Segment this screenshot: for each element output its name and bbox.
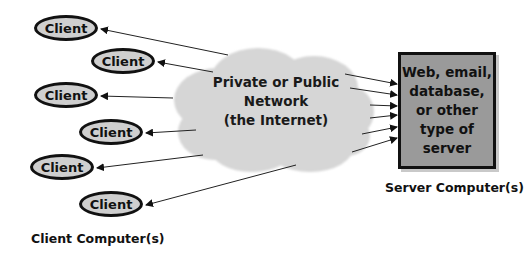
client-node-6: Client xyxy=(79,191,143,217)
client-node-5: Client xyxy=(30,154,94,180)
client-node-1: Client xyxy=(34,15,98,41)
server-caption: Server Computer(s) xyxy=(385,180,524,195)
network-label: Private or Public Network (the Internet) xyxy=(196,73,356,130)
network-label-line-1: Private or Public xyxy=(196,73,356,92)
network-label-line-2: Network xyxy=(196,92,356,111)
network-label-line-3: (the Internet) xyxy=(196,111,356,130)
client-node-4: Client xyxy=(79,119,143,145)
server-label: Web, email, database, or other type of s… xyxy=(402,63,492,158)
client-node-2: Client xyxy=(91,48,155,74)
client-caption: Client Computer(s) xyxy=(31,231,165,246)
client-node-3: Client xyxy=(34,82,98,108)
server-node: Web, email, database, or other type of s… xyxy=(398,52,496,169)
